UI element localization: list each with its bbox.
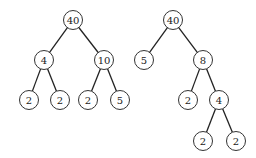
node-label: 2 bbox=[185, 95, 191, 106]
right-tree-node: 2 bbox=[179, 91, 198, 110]
edges bbox=[32, 28, 232, 133]
node-label: 2 bbox=[200, 136, 206, 147]
left-tree-edge bbox=[50, 28, 68, 53]
left-tree-edge bbox=[108, 69, 117, 91]
right-tree-edge bbox=[179, 28, 198, 53]
right-tree-node: 2 bbox=[194, 132, 213, 151]
node-label: 2 bbox=[26, 95, 32, 106]
node-label: 4 bbox=[41, 55, 47, 66]
right-tree-node: 8 bbox=[194, 51, 213, 70]
left-tree-node: 2 bbox=[20, 91, 39, 110]
left-tree-node: 2 bbox=[51, 91, 70, 110]
right-tree-node: 40 bbox=[164, 11, 183, 30]
right-tree-edge bbox=[207, 69, 216, 91]
node-label: 5 bbox=[141, 55, 147, 66]
node-label: 2 bbox=[233, 136, 239, 147]
left-tree-node: 4 bbox=[35, 51, 54, 70]
left-tree-edge bbox=[48, 69, 57, 91]
node-label: 40 bbox=[67, 15, 80, 26]
tree-diagram: 40410222540582422 bbox=[0, 0, 256, 158]
right-tree-edge bbox=[206, 109, 215, 132]
left-tree-node: 10 bbox=[95, 51, 114, 70]
right-tree-edge bbox=[150, 28, 168, 53]
left-tree-node: 2 bbox=[79, 91, 98, 110]
left-tree-edge bbox=[32, 69, 40, 91]
node-label: 2 bbox=[57, 95, 63, 106]
node-label: 8 bbox=[200, 55, 206, 66]
node-label: 40 bbox=[167, 15, 180, 26]
right-tree-edge bbox=[223, 109, 233, 132]
right-tree-node: 5 bbox=[135, 51, 154, 70]
left-tree-edge bbox=[79, 28, 98, 53]
node-label: 10 bbox=[98, 55, 111, 66]
node-label: 2 bbox=[85, 95, 91, 106]
left-tree-node: 40 bbox=[64, 11, 83, 30]
node-label: 5 bbox=[117, 95, 123, 106]
left-tree-edge bbox=[92, 69, 101, 91]
node-label: 4 bbox=[216, 95, 222, 106]
right-tree-edge bbox=[191, 69, 199, 91]
left-tree-node: 5 bbox=[111, 91, 130, 110]
right-tree-node: 2 bbox=[227, 132, 246, 151]
right-tree-node: 4 bbox=[210, 91, 229, 110]
